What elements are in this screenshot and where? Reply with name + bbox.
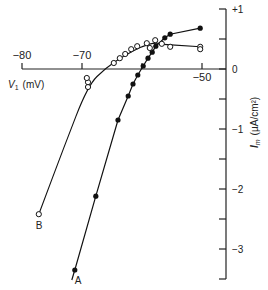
curve-b-point [117, 56, 122, 61]
curve-b-point [144, 41, 149, 46]
chart-svg: −80−70−50+10−1−2−3V1(mV)Im(µA/cm²)AB [0, 0, 268, 290]
curve-b-point [153, 38, 158, 43]
curve-a-label: A [75, 275, 82, 286]
curve-a-point [130, 81, 135, 86]
curve-a-line [72, 28, 200, 280]
y-tick-label: −3 [232, 244, 244, 255]
curve-b-point [147, 45, 152, 50]
curve-a-point [162, 35, 167, 40]
x-axis-label: V1(mV) [8, 79, 44, 91]
curve-a-point [198, 26, 203, 31]
x-tick-label: −50 [193, 71, 212, 83]
iv-chart: −80−70−50+10−1−2−3V1(mV)Im(µA/cm²)AB [0, 0, 268, 290]
curve-b-point [129, 47, 134, 52]
curve-b-label: B [36, 220, 43, 231]
y-tick-label: −1 [232, 124, 244, 135]
curve-a-point [93, 194, 98, 199]
curve-a-point [153, 44, 158, 49]
curve-b-point [111, 60, 116, 65]
curve-b-point [135, 44, 140, 49]
y-tick-label: 0 [232, 64, 238, 75]
markers [36, 26, 203, 273]
curve-a-point [126, 93, 131, 98]
y-tick-label: +1 [232, 4, 244, 15]
curve-b-point [159, 41, 164, 46]
y-tick-label: −2 [232, 184, 244, 195]
x-tick-label: −70 [73, 49, 92, 61]
curves [39, 28, 200, 280]
axes [22, 9, 226, 279]
curve-b-point [168, 44, 173, 49]
curve-b-point [84, 75, 89, 80]
curve-b-point [198, 47, 203, 52]
curve-a-point [141, 63, 146, 68]
y-axis-label: Im(µA/cm²) [249, 97, 261, 148]
curve-a-point [115, 117, 120, 122]
curve-a-point [168, 32, 173, 37]
x-tick-label: −80 [13, 49, 32, 61]
curve-b-point [123, 51, 128, 56]
curve-a-point [145, 56, 150, 61]
curve-a-point [135, 72, 140, 77]
curve-a-point [72, 267, 77, 272]
curve-b-point [36, 212, 41, 217]
